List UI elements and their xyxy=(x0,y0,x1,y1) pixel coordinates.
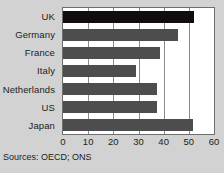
bar-netherlands xyxy=(63,83,157,96)
x-tick-label-0: 0 xyxy=(60,136,65,147)
bar-us xyxy=(63,101,157,114)
category-label-us: US xyxy=(0,98,59,116)
category-label-germany: Germany xyxy=(0,25,59,43)
x-tick-label-20: 20 xyxy=(108,136,119,147)
bar-italy xyxy=(63,65,136,78)
bar-japan xyxy=(63,119,193,132)
category-axis-labels: UK Germany France Italy Netherlands US J… xyxy=(0,7,59,135)
bar-row xyxy=(63,101,214,114)
bar-row xyxy=(63,11,214,24)
x-tick-label-10: 10 xyxy=(83,136,94,147)
bar-row xyxy=(63,83,214,96)
bars-layer xyxy=(63,8,214,134)
bar-chart-figure: UK Germany France Italy Netherlands US J… xyxy=(0,0,224,173)
x-tick-label-60: 60 xyxy=(209,136,220,147)
x-axis-tick-labels: 0102030405060 xyxy=(62,136,215,150)
bar-uk xyxy=(63,11,194,24)
bar-row xyxy=(63,47,214,60)
bar-row xyxy=(63,119,214,132)
source-note: Sources: OECD; ONS xyxy=(3,152,92,162)
category-label-italy: Italy xyxy=(0,62,59,80)
x-tick-label-50: 50 xyxy=(184,136,195,147)
bar-france xyxy=(63,47,160,60)
category-label-japan: Japan xyxy=(0,117,59,135)
bar-germany xyxy=(63,29,178,42)
plot-area xyxy=(62,7,215,135)
bar-row xyxy=(63,65,214,78)
bar-row xyxy=(63,29,214,42)
category-label-netherlands: Netherlands xyxy=(0,80,59,98)
category-label-france: France xyxy=(0,44,59,62)
x-tick-label-40: 40 xyxy=(158,136,169,147)
x-tick-label-30: 30 xyxy=(133,136,144,147)
category-label-uk: UK xyxy=(0,7,59,25)
